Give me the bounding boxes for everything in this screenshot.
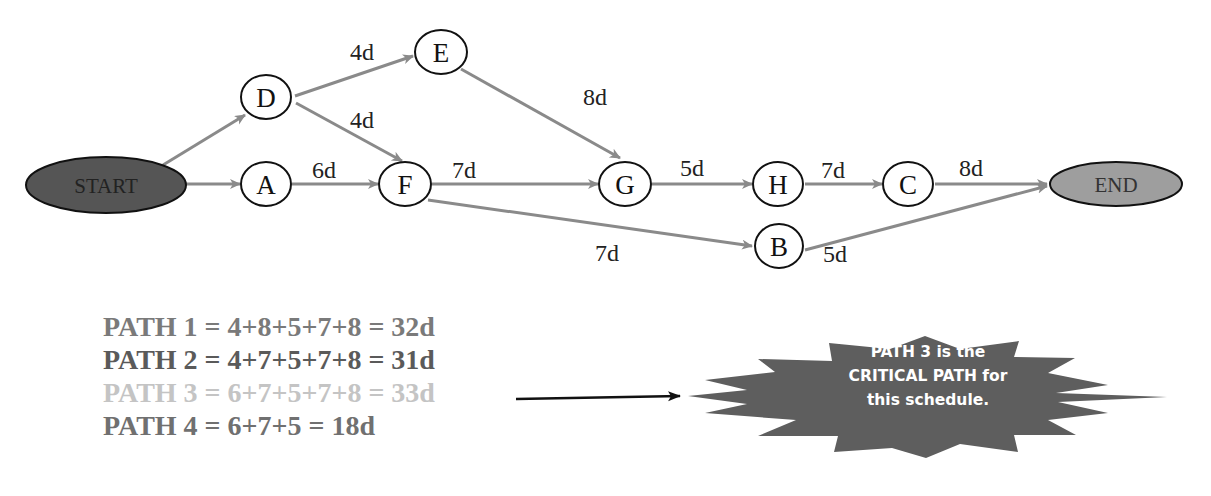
path-4-text: PATH 4 = 6+7+5 = 18d bbox=[103, 409, 375, 442]
start-label: START bbox=[74, 174, 138, 198]
start-node: START bbox=[26, 157, 186, 213]
edge-label-g-h: 5d bbox=[680, 155, 704, 181]
callout-pointer-arrow bbox=[516, 396, 680, 399]
path-1-text: PATH 1 = 4+8+5+7+8 = 32d bbox=[103, 310, 435, 343]
end-label: END bbox=[1094, 173, 1137, 197]
edge-label-d-f: 4d bbox=[350, 107, 374, 133]
edge-label-c-end: 8d bbox=[959, 155, 983, 181]
edge-e-g bbox=[461, 69, 620, 158]
edge-label-f-g: 7d bbox=[452, 157, 476, 183]
edge-label-h-c: 7d bbox=[821, 157, 845, 183]
edge-label-f-b: 7d bbox=[595, 240, 619, 266]
node-e-label: E bbox=[433, 38, 450, 68]
edge-label-b-end: 5d bbox=[823, 241, 847, 267]
callout-line-2: CRITICAL PATH for bbox=[808, 364, 1048, 388]
edge-label-e-g: 8d bbox=[583, 84, 607, 110]
edge-start-d bbox=[163, 115, 245, 165]
node-g-label: G bbox=[615, 170, 635, 200]
node-d-label: D bbox=[256, 83, 276, 113]
path-2-text: PATH 2 = 4+7+5+7+8 = 31d bbox=[103, 343, 435, 376]
edge-f-b bbox=[428, 200, 752, 246]
edge-label-d-e: 4d bbox=[350, 39, 374, 65]
callout-line-1: PATH 3 is the bbox=[808, 340, 1048, 364]
node-a-label: A bbox=[256, 170, 276, 200]
path-3-text: PATH 3 = 6+7+5+7+8 = 33d bbox=[103, 376, 435, 409]
node-b-label: B bbox=[770, 232, 788, 262]
node-f-label: F bbox=[397, 170, 412, 200]
node-c-label: C bbox=[899, 170, 917, 200]
node-h-label: H bbox=[768, 170, 788, 200]
end-node: END bbox=[1050, 162, 1182, 206]
edge-d-f bbox=[296, 103, 402, 161]
callout-text: PATH 3 is the CRITICAL PATH for this sch… bbox=[808, 340, 1048, 412]
callout-line-3: this schedule. bbox=[808, 388, 1048, 412]
edge-label-a-f: 6d bbox=[312, 157, 336, 183]
